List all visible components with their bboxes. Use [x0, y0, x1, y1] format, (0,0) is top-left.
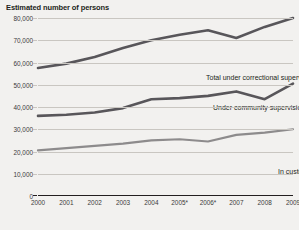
x-axis-tick-label: 2005* — [171, 199, 188, 206]
series-line-2 — [38, 129, 293, 150]
y-axis-tick-label: 70,000 — [13, 37, 33, 44]
y-axis-tick — [33, 40, 37, 41]
x-axis-tick-label: 2008 — [258, 199, 272, 206]
gridline — [38, 85, 293, 86]
y-axis-tick-label: 40,000 — [13, 104, 33, 111]
chart-container: Estimated number of persons 010,00020,00… — [0, 0, 299, 230]
x-axis-labels: 200020012002200320042005*2006*2007200820… — [38, 199, 293, 213]
plot-area: Total under correctional supervision Und… — [38, 18, 293, 196]
y-axis-tick — [33, 174, 37, 175]
y-axis-labels: 010,00020,00030,00040,00050,00060,00070,… — [0, 18, 33, 196]
series-label-total-under-correctional-supervision: Total under correctional supervision — [206, 74, 299, 81]
gridline — [38, 63, 293, 64]
gridline — [38, 174, 293, 175]
y-axis-tick — [33, 63, 37, 64]
y-axis-tick — [33, 107, 37, 108]
x-axis-tick-label: 2007 — [229, 199, 243, 206]
x-axis-tick-label: 2002 — [88, 199, 102, 206]
gridline — [38, 152, 293, 153]
x-axis-tick-label: 2001 — [59, 199, 73, 206]
y-axis-tick — [33, 18, 37, 19]
y-axis-tick-label: 10,000 — [13, 170, 33, 177]
gridline — [38, 40, 293, 41]
x-axis-tick-label: 2006* — [200, 199, 217, 206]
y-axis-tick-label: 30,000 — [13, 126, 33, 133]
y-axis-tick-label: 20,000 — [13, 148, 33, 155]
y-axis-tick-label: 80,000 — [13, 15, 33, 22]
y-axis-tick — [33, 195, 37, 196]
x-axis-tick-label: 2000 — [31, 199, 45, 206]
y-axis-tick — [33, 152, 37, 153]
gridline — [38, 107, 293, 108]
x-axis-tick-label: 2009 — [286, 199, 299, 206]
gridline — [38, 18, 293, 19]
y-axis-tick — [33, 85, 37, 86]
chart-title: Estimated number of persons — [6, 3, 109, 12]
y-axis-tick-label: 50,000 — [13, 81, 33, 88]
x-axis-tick-label: 2003 — [116, 199, 130, 206]
series-line-1 — [38, 84, 293, 116]
y-axis-tick-label: 60,000 — [13, 59, 33, 66]
series-line-0 — [38, 18, 293, 68]
gridline — [38, 129, 293, 130]
x-axis-line — [38, 195, 293, 196]
y-axis-tick — [33, 129, 37, 130]
x-axis-tick-label: 2004 — [144, 199, 158, 206]
